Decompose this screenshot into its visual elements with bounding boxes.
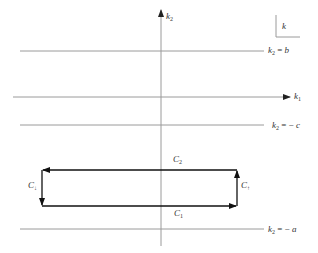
- contour: [42, 170, 237, 206]
- label-Cdown: C↓: [28, 181, 37, 191]
- corner-k-label: k: [282, 22, 286, 31]
- label-Cup: C↑: [241, 181, 250, 191]
- k2-axis-label: k2: [166, 12, 173, 22]
- contour-diagram: [0, 0, 318, 253]
- label-k2-eq-minus-a: k2 = − a: [268, 225, 296, 235]
- label-k2-eq-b: k2 = b: [268, 46, 289, 56]
- label-C1: C1: [174, 209, 183, 219]
- k1-axis-label: k1: [294, 92, 301, 102]
- label-k2-eq-minus-c: k2 = − c: [272, 121, 300, 131]
- corner-label-box: [276, 15, 300, 37]
- label-C2: C2: [173, 155, 182, 165]
